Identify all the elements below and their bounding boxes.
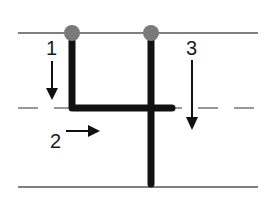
- diagram-canvas: [0, 0, 271, 199]
- start-dot-3: [143, 25, 159, 41]
- stroke-1-label: 1: [46, 38, 57, 58]
- stroke-3-label: 3: [186, 38, 197, 58]
- start-dot-1: [64, 25, 80, 41]
- arrow-right-icon: [66, 125, 100, 137]
- stroke-order-diagram: 1 2 3: [0, 0, 271, 199]
- stroke-2-label: 2: [50, 131, 61, 151]
- arrow-down-icon: [186, 60, 198, 130]
- stroke-1-2-path: [72, 35, 172, 108]
- arrow-down-icon: [46, 61, 58, 100]
